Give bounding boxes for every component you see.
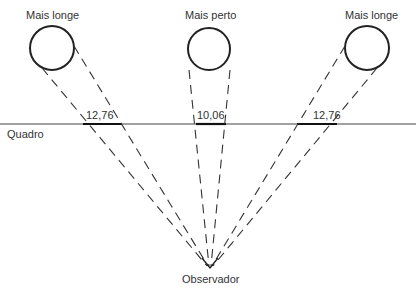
sight-lines (42, 46, 377, 266)
left-object-circle (30, 26, 74, 70)
left-sight-line-b (74, 46, 208, 266)
diagram-canvas (0, 0, 420, 294)
center-sight-line-a (189, 70, 209, 266)
center-object-label: Mais perto (185, 9, 236, 21)
left-sight-line-a (42, 68, 207, 266)
perspective-diagram: Mais longe Mais perto Mais longe 12,76 1… (0, 0, 420, 294)
right-object-circle (345, 26, 389, 70)
center-measurement: 10,06 (197, 109, 225, 121)
left-measurement: 12,76 (86, 109, 114, 121)
observer-label: Observador (182, 273, 239, 285)
picture-plane-label: Quadro (7, 128, 44, 140)
center-object-circle (188, 28, 230, 70)
left-object-label: Mais longe (26, 9, 79, 21)
observer-arrow-icon (202, 258, 218, 268)
right-measurement: 12,76 (313, 109, 341, 121)
right-sight-line-b (213, 68, 377, 266)
right-sight-line-a (212, 46, 345, 266)
right-object-label: Mais longe (345, 9, 398, 21)
center-sight-line-b (211, 70, 230, 266)
